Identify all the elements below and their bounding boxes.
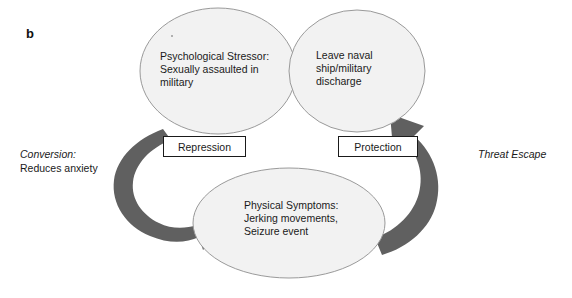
box-protection: Protection xyxy=(338,136,418,157)
side-label-conversion: Conversion: Reduces anxiety xyxy=(20,148,98,175)
side-label-conversion-line2: Reduces anxiety xyxy=(20,162,98,176)
node-label-physical-symptoms: Physical Symptoms: Jerking movements, Se… xyxy=(244,199,394,239)
side-label-conversion-line1: Conversion: xyxy=(20,148,98,162)
figure-panel-b: b Psychological Stressor: Sexually assau… xyxy=(0,0,572,298)
box-repression: Repression xyxy=(163,136,246,157)
panel-letter: b xyxy=(26,26,34,41)
side-label-threat-escape: Threat Escape xyxy=(478,148,546,162)
node-label-leave-naval-ship: Leave naval ship/military discharge xyxy=(316,49,421,89)
node-label-psychological-stressor: Psychological Stressor: Sexually assault… xyxy=(160,50,305,90)
stray-speck xyxy=(171,35,173,37)
